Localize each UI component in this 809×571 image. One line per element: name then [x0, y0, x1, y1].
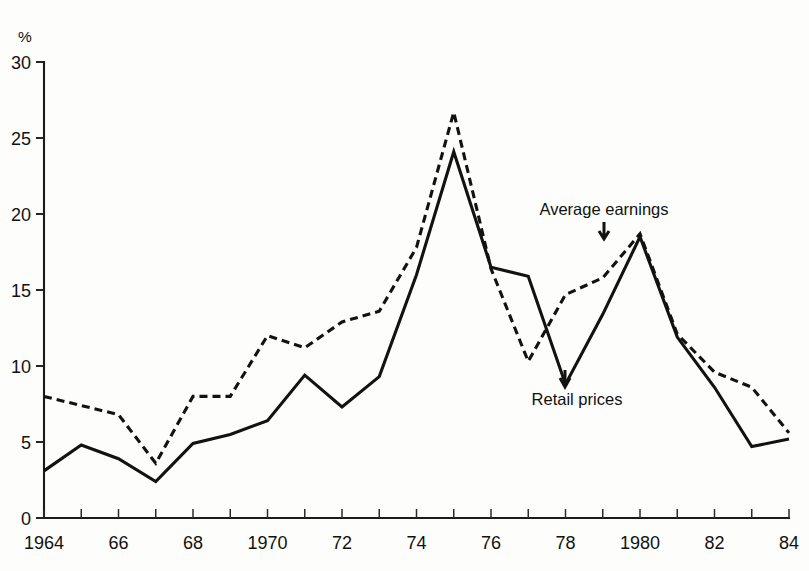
- tick-label-group: 0510152025301964666819707274767819808284…: [11, 28, 799, 553]
- series-group: [44, 112, 789, 481]
- annotation-group: Average earningsRetail prices: [532, 200, 669, 408]
- chart-figure: 0510152025301964666819707274767819808284…: [0, 0, 809, 571]
- annotation-average-earnings: Average earnings: [539, 200, 668, 218]
- x-tick-label-1970: 1970: [247, 533, 287, 553]
- y-tick-label-30: 30: [11, 53, 31, 73]
- x-tick-label-84: 84: [779, 533, 799, 553]
- x-tick-label-72: 72: [332, 533, 352, 553]
- x-tick-label-1980: 1980: [620, 533, 660, 553]
- y-axis-unit-label: %: [18, 28, 32, 45]
- x-tick-label-78: 78: [555, 533, 575, 553]
- y-tick-label-5: 5: [21, 433, 31, 453]
- axis-lines: [44, 62, 789, 518]
- series-line-average-earnings: [44, 112, 789, 463]
- series-line-retail-prices: [44, 152, 789, 482]
- y-tick-label-15: 15: [11, 281, 31, 301]
- y-tick-label-25: 25: [11, 129, 31, 149]
- y-tick-label-0: 0: [21, 509, 31, 529]
- x-tick-label-82: 82: [704, 533, 724, 553]
- y-tick-label-10: 10: [11, 357, 31, 377]
- x-tick-label-74: 74: [406, 533, 426, 553]
- x-tick-label-76: 76: [481, 533, 501, 553]
- line-chart-plot: 0510152025301964666819707274767819808284…: [0, 0, 809, 571]
- annotation-average-earnings-pointer: [599, 222, 609, 239]
- annotation-retail-prices: Retail prices: [532, 390, 623, 408]
- y-tick-label-20: 20: [11, 205, 31, 225]
- x-tick-label-68: 68: [183, 533, 203, 553]
- x-tick-label-1964: 1964: [24, 533, 64, 553]
- x-tick-label-66: 66: [108, 533, 128, 553]
